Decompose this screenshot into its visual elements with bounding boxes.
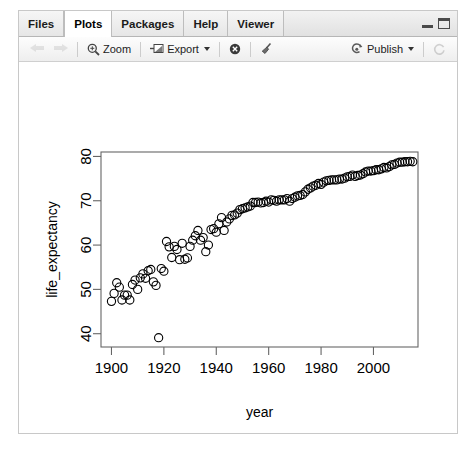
- toolbar-separator-3: [219, 42, 220, 57]
- tab-plots-label: Plots: [74, 18, 102, 30]
- publish-icon: [350, 43, 364, 55]
- publish-label: Publish: [367, 43, 403, 55]
- tab-packages[interactable]: Packages: [112, 11, 184, 36]
- svg-text:60: 60: [77, 237, 94, 254]
- svg-text:40: 40: [77, 325, 94, 342]
- export-label: Export: [167, 43, 199, 55]
- tab-files[interactable]: Files: [19, 11, 64, 36]
- tab-plots[interactable]: Plots: [64, 11, 112, 37]
- back-arrow-icon: [30, 43, 44, 55]
- y-axis-title: life_expectancy: [44, 201, 60, 298]
- toolbar-separator-4: [250, 42, 251, 57]
- zoom-label: Zoom: [103, 43, 131, 55]
- panel-tabbar: Files Plots Packages Help Viewer: [19, 11, 457, 37]
- tab-packages-label: Packages: [121, 18, 174, 30]
- remove-plot-icon: [229, 43, 241, 55]
- plots-toolbar: Zoom Export: [19, 37, 457, 62]
- back-button[interactable]: [25, 42, 49, 56]
- svg-text:1920: 1920: [147, 359, 180, 376]
- plot-output-area[interactable]: 190019201940196019802000 4050607080 year…: [19, 62, 457, 433]
- svg-text:80: 80: [77, 148, 94, 165]
- toolbar-separator-2: [140, 42, 141, 57]
- forward-arrow-icon: [54, 43, 68, 55]
- tab-files-label: Files: [28, 18, 54, 30]
- y-axis-tick-labels: 4050607080: [77, 148, 94, 342]
- svg-text:1960: 1960: [252, 359, 285, 376]
- tab-help-label: Help: [193, 18, 218, 30]
- publish-button[interactable]: Publish: [345, 42, 419, 56]
- svg-text:50: 50: [77, 281, 94, 298]
- minimize-icon[interactable]: [422, 19, 433, 28]
- tab-help[interactable]: Help: [184, 11, 228, 36]
- chevron-down-icon: [204, 47, 210, 51]
- scatter-points: [107, 157, 416, 342]
- broom-clear-icon: [260, 42, 274, 56]
- plot-axis-ticks: [93, 156, 373, 355]
- svg-text:1980: 1980: [304, 359, 337, 376]
- svg-text:1940: 1940: [200, 359, 233, 376]
- life-expectancy-scatter-plot: 190019201940196019802000 4050607080 year…: [19, 62, 457, 434]
- toolbar-separator-1: [77, 42, 78, 57]
- tabbar-filler: [284, 11, 418, 36]
- plots-panel: Files Plots Packages Help Viewer: [18, 10, 458, 434]
- window-controls: [418, 11, 457, 36]
- svg-text:70: 70: [77, 192, 94, 209]
- zoom-button[interactable]: Zoom: [82, 42, 136, 57]
- magnifier-icon: [87, 43, 100, 56]
- svg-text:1900: 1900: [95, 359, 128, 376]
- tab-viewer[interactable]: Viewer: [228, 11, 284, 36]
- maximize-icon[interactable]: [438, 18, 450, 29]
- chevron-down-icon: [408, 47, 414, 51]
- refresh-button[interactable]: [428, 42, 451, 57]
- svg-text:2000: 2000: [357, 359, 390, 376]
- x-axis-title: year: [246, 404, 274, 420]
- toolbar-separator-5: [423, 42, 424, 57]
- remove-plot-button[interactable]: [224, 42, 246, 56]
- refresh-icon: [433, 43, 446, 56]
- clear-plots-button[interactable]: [255, 41, 279, 57]
- plot-frame: [101, 152, 418, 347]
- tab-viewer-label: Viewer: [237, 18, 274, 30]
- forward-button[interactable]: [49, 42, 73, 56]
- export-button[interactable]: Export: [145, 42, 215, 56]
- x-axis-tick-labels: 190019201940196019802000: [95, 359, 390, 376]
- rstudio-plots-screenshot: Files Plots Packages Help Viewer: [0, 0, 476, 449]
- export-icon: [150, 43, 164, 55]
